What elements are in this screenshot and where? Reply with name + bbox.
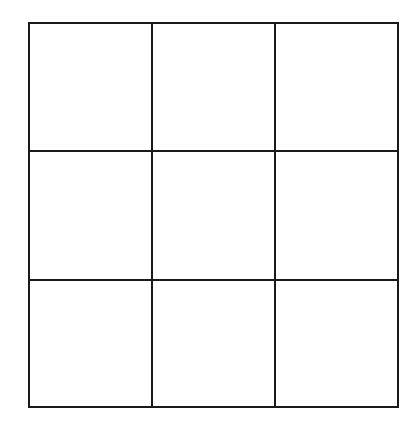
grid-cell-r3-c2 (153, 281, 276, 406)
grid-cell-r1-c2 (153, 24, 276, 152)
grid-cell-r3-c3 (276, 281, 397, 406)
grid-cell-r2-c1 (30, 152, 153, 281)
grid-cell-r2-c2 (153, 152, 276, 281)
three-by-three-grid (28, 22, 399, 408)
grid-cell-r1-c1 (30, 24, 153, 152)
grid-cell-r3-c1 (30, 281, 153, 406)
grid-cell-r2-c3 (276, 152, 397, 281)
grid-cell-r1-c3 (276, 24, 397, 152)
